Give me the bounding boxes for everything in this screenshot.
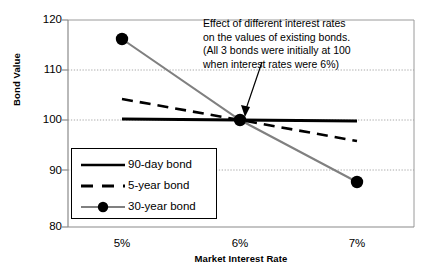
legend-label: 5-year bond <box>128 180 189 192</box>
legend-label: 90-day bond <box>128 159 192 171</box>
legend-item-5-year-bond: 5-year bond <box>72 175 216 196</box>
legend-key-dashed-line <box>80 179 126 193</box>
legend-key-marker-line <box>80 200 126 214</box>
annotation-line-1: Effect of different interest rates <box>203 17 417 31</box>
legend-item-90-day-bond: 90-day bond <box>72 154 216 175</box>
legend-key-solid-line <box>80 158 126 172</box>
chart-legend: 90-day bond 5-year bond 30-year bond <box>71 148 217 219</box>
annotation-text: Effect of different interest rates on th… <box>203 17 417 71</box>
data-point-marker <box>116 33 128 45</box>
legend-label: 30-year bond <box>128 201 196 213</box>
series-90-day-bond <box>122 119 357 121</box>
data-point-marker <box>351 176 363 188</box>
annotation-line-4: when interest rates were 6%) <box>203 58 417 72</box>
legend-item-30-year-bond: 30-year bond <box>72 196 216 217</box>
annotation-line-2: on the values of existing bonds. <box>203 31 417 45</box>
y-tick-marks <box>62 20 68 227</box>
bond-value-chart: Bond Value 120 110 100 90 80 5% 6% 7% Ma… <box>0 0 434 273</box>
legend-circle-marker-icon <box>98 201 108 211</box>
annotation-line-3: (All 3 bonds were initially at 100 <box>203 44 417 58</box>
